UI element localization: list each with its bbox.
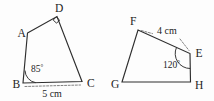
geometry-figure: A D C B 85° 5 cm F E H [0, 0, 214, 101]
vertex-label-b: B [13, 78, 21, 90]
vertex-label-a: A [18, 27, 27, 39]
vertex-label-c: C [87, 77, 95, 89]
vertex-label-f: F [130, 15, 136, 27]
measure-leader-fe [180, 39, 189, 51]
vertex-label-e: E [196, 47, 203, 59]
vertex-label-g: G [111, 78, 119, 90]
degree-symbol-e: ° [177, 59, 180, 67]
angle-label-b: 85° [31, 63, 44, 74]
measure-line-bc [25, 85, 81, 87]
shape-quadrilateral-abcd: A D C B 85° 5 cm [13, 2, 96, 99]
vertex-label-h: H [195, 79, 203, 91]
vertex-label-d: D [55, 2, 63, 14]
figure-canvas: A D C B 85° 5 cm F E H [0, 0, 214, 101]
angle-value-b: 85 [31, 64, 41, 74]
svg-text:85°: 85° [31, 63, 44, 74]
shape-quadrilateral-efgh: F E H G 4 cm 120° [111, 15, 203, 91]
measure-label-fe: 4 cm [157, 25, 177, 36]
edge-path-efgh [122, 30, 191, 82]
svg-text:120°: 120° [163, 59, 180, 70]
angle-value-e: 120 [163, 60, 178, 70]
degree-symbol-b: ° [41, 63, 44, 71]
measure-label-bc: 5 cm [42, 88, 62, 99]
angle-label-e: 120° [163, 59, 180, 70]
